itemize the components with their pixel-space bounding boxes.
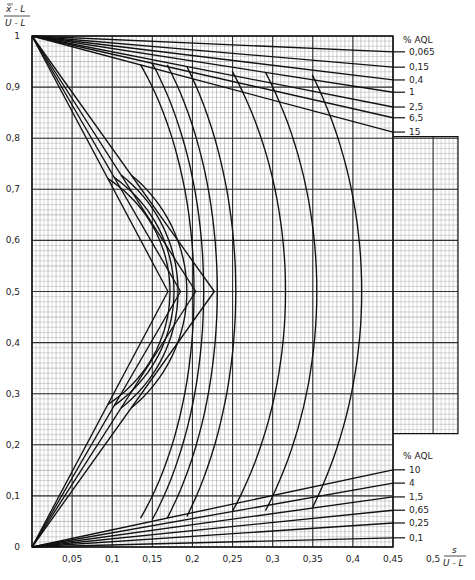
- legend-entry: 0,065: [409, 47, 435, 57]
- extension-border: [393, 137, 458, 434]
- y-tick-label: 0,3: [6, 389, 20, 399]
- x-tick-label: 0,35: [303, 554, 323, 564]
- y-tick-label: 1: [14, 31, 20, 41]
- legend-entry: 15: [409, 127, 420, 137]
- legend-entry: 1: [409, 87, 415, 97]
- legend-entry: 0,65: [409, 505, 429, 515]
- x-title-numerator: s: [452, 545, 457, 555]
- axis-ticks: 0,050,10,150,20,250,30,350,40,450,500,10…: [6, 31, 441, 564]
- legend-entry: 6,5: [409, 113, 423, 123]
- x-tick-label: 0,3: [266, 554, 280, 564]
- legend-entry: 0,15: [409, 62, 429, 72]
- legend-entry: 10: [409, 465, 421, 475]
- y-axis-title: x̄ - L U - L: [4, 4, 30, 28]
- legend-title: % AQL: [403, 35, 433, 45]
- x-tick-label: 0,4: [346, 554, 361, 564]
- legend-entry: 0,4: [409, 75, 424, 85]
- y-tick-label: 0,7: [6, 184, 20, 194]
- y-tick-label: 0,1: [6, 491, 20, 501]
- lower-aql-legend: % AQL1041,50,650,250,1: [393, 451, 433, 543]
- x-title-denominator: U - L: [443, 558, 464, 568]
- legend-entry: 0,25: [409, 518, 429, 528]
- y-tick-label: 0,6: [6, 235, 21, 245]
- y-tick-label: 0,5: [6, 287, 20, 297]
- x-tick-label: 0,45: [383, 554, 403, 564]
- x-tick-label: 0,25: [223, 554, 243, 564]
- legend-entry: 2,5: [409, 102, 423, 112]
- y-tick-label: 0,9: [6, 82, 21, 92]
- legend-title: % AQL: [403, 451, 433, 461]
- x-tick-label: 0,05: [62, 554, 82, 564]
- acceptance-chart: 0,050,10,150,20,250,30,350,40,450,500,10…: [0, 0, 475, 580]
- y-title-denominator: U - L: [5, 18, 26, 28]
- aql-legends: % AQL0,0650,150,412,56,515% AQL1041,50,6…: [393, 35, 435, 543]
- y-tick-label: 0,4: [6, 338, 21, 348]
- legend-entry: 0,1: [409, 533, 423, 543]
- x-axis-title: s U - L: [443, 545, 466, 568]
- upper-aql-legend: % AQL0,0650,150,412,56,515: [393, 35, 435, 137]
- y-tick-label: 0,8: [6, 133, 21, 143]
- x-tick-label: 0,2: [185, 554, 199, 564]
- x-tick-label: 0,5: [426, 554, 440, 564]
- x-tick-label: 0,1: [105, 554, 119, 564]
- x-tick-label: 0,15: [142, 554, 162, 564]
- y-tick-label: 0: [14, 542, 20, 552]
- legend-entry: 4: [409, 478, 415, 488]
- legend-entry: 1,5: [409, 492, 423, 502]
- y-title-numerator: x̄ - L: [5, 4, 25, 14]
- y-tick-label: 0,2: [6, 440, 20, 450]
